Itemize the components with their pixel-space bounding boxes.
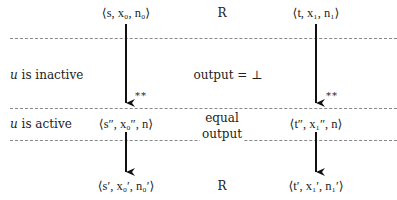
- inactive-label: u is inactive: [10, 68, 83, 82]
- right-top-state: ⟨t, x₁, n₁⟩: [293, 5, 340, 21]
- left-arrow-annotation: **: [135, 90, 147, 101]
- inactive-output-note: output = ⊥: [194, 68, 263, 82]
- active-var: u: [10, 117, 18, 131]
- right-arrow-annotation: **: [326, 90, 338, 101]
- left-bottom-state: ⟨s′, x₀′, n₀′⟩: [98, 178, 155, 194]
- left-middle-state: ⟨s″, x₀″, n⟩: [97, 116, 155, 132]
- right-middle-state: ⟨t″, x₁″, n⟩: [288, 116, 345, 132]
- right-bottom-state: ⟨t′, x₁′, n₁′⟩: [288, 178, 343, 194]
- inactive-text: is inactive: [18, 68, 84, 82]
- active-text: is active: [18, 117, 72, 131]
- active-output-note-line2: output: [200, 127, 244, 141]
- active-output-note-line1: equal: [205, 111, 239, 125]
- relation-bottom: R: [217, 179, 226, 193]
- relation-top: R: [217, 6, 226, 20]
- left-top-state: ⟨s, x₀, n₀⟩: [102, 5, 150, 21]
- active-label: u is active: [10, 117, 72, 131]
- inactive-var: u: [10, 68, 18, 82]
